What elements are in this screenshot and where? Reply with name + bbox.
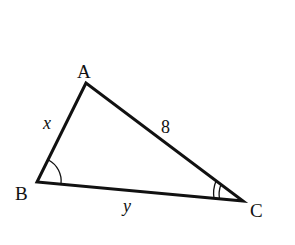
angle-mark-b	[49, 160, 62, 184]
side-label-x: x	[42, 113, 51, 133]
triangle-abc	[37, 83, 243, 201]
angle-mark-c-inner	[219, 185, 221, 200]
side-label-y: y	[121, 196, 131, 216]
side-label-8: 8	[161, 117, 170, 137]
angle-mark-c-outer	[214, 181, 216, 199]
vertex-label-c: C	[250, 200, 263, 221]
triangle-diagram: A B C x 8 y	[0, 0, 295, 245]
vertex-label-b: B	[15, 183, 28, 204]
vertex-label-a: A	[77, 61, 91, 82]
